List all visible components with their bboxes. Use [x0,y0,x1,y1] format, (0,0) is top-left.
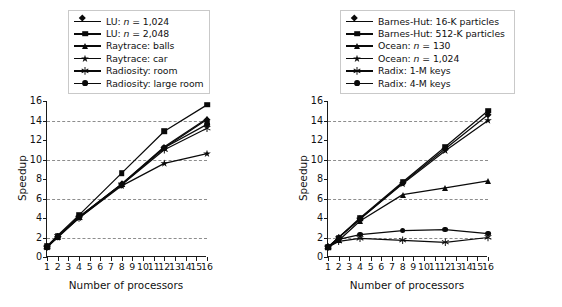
chart-panel-left: LU: n = 1,024LU: n = 2,048Raytrace: ball… [0,0,281,307]
circle-icon [336,237,342,243]
legend-marker-square-icon [346,28,373,40]
legend-item[interactable]: Radix: 4-M keys [346,77,507,89]
data-point [485,231,491,237]
data-point [76,214,82,220]
legend-item[interactable]: Radiosity: room [74,65,202,77]
y-axis-tick-label: 0 [317,252,323,262]
star-icon [81,55,89,63]
chart-legend: Barnes-Hut: 16-K particlesBarnes-Hut: 51… [340,10,515,94]
legend-item-label: Ocean: n = 130 [378,41,450,50]
circle-icon [76,214,82,220]
square-icon [82,31,88,37]
y-axis-tick-label: 14 [30,116,42,126]
y-axis-tick-label: 16 [30,96,42,106]
circle-icon [161,145,167,151]
legend-item-label: Barnes-Hut: 16-K particles [378,17,499,26]
legend-marker-glyph [81,67,89,75]
legend-marker-glyph [353,67,361,75]
legend-item-label: Raytrace: car [106,54,168,63]
circle-icon [82,81,88,87]
x-axis-title: Number of processors [350,279,464,291]
data-point [204,121,210,127]
data-point [325,244,331,250]
triangle-icon [442,185,448,191]
legend-item-label: Barnes-Hut: 512-K particles [378,29,505,38]
square-icon [119,170,125,176]
square-icon [485,108,491,114]
legend-item[interactable]: LU: n = 2,048 [74,27,202,39]
legend-item[interactable]: Radiosity: large room [74,77,202,89]
legend-item[interactable]: Barnes-Hut: 512-K particles [346,27,507,39]
chart-panel-right: Barnes-Hut: 16-K particlesBarnes-Hut: 51… [281,0,562,307]
data-point [336,237,342,243]
y-axis-tick-label: 10 [30,155,42,165]
circle-icon [357,232,363,238]
asterisk-icon [399,236,407,244]
chart-legend: LU: n = 1,024LU: n = 2,048Raytrace: ball… [68,10,210,94]
x-axis-tick-label: 3 [65,262,71,271]
data-point [119,170,125,176]
asterisk-icon [353,67,361,75]
star-icon [356,215,364,223]
legend-item[interactable]: Radix: 1-M keys [346,65,507,77]
y-axis-tick-label: 6 [36,194,42,204]
data-point [399,180,407,188]
legend-item[interactable]: Barnes-Hut: 16-K particles [346,15,507,27]
legend-item-label: LU: n = 1,024 [106,17,169,26]
circle-icon [442,227,448,233]
legend-item-label: Raytrace: balls [106,41,174,50]
legend-item[interactable]: Ocean: n = 130 [346,40,507,52]
legend-item[interactable]: Ocean: n = 1,024 [346,52,507,64]
circle-icon [204,121,210,127]
legend-item[interactable]: Raytrace: balls [74,40,202,52]
legend-marker-asterisk-icon [74,65,101,77]
legend-marker-triangle-icon [346,40,373,52]
x-axis-tick-label: 6 [378,262,384,271]
x-axis-title: Number of processors [69,279,183,291]
legend-item[interactable]: Raytrace: car [74,52,202,64]
circle-icon [119,182,125,188]
data-point [357,232,363,238]
asterisk-icon [441,238,449,246]
x-axis-tick-label: 2 [336,262,342,271]
legend-item-label: Radiosity: large room [106,79,204,88]
y-axis-title: Speedup [297,155,309,201]
x-axis-tick-label: 1 [325,262,331,271]
data-point [203,150,211,158]
y-axis-tick-label: 4 [317,213,323,223]
y-axis-tick-label: 10 [311,155,323,165]
data-point [485,108,491,114]
legend-marker-glyph [82,81,88,87]
legend-marker-glyph [354,19,359,24]
data-point [400,228,406,234]
circle-icon [55,234,61,240]
y-axis-tick-label: 16 [311,96,323,106]
series-lines [47,101,207,257]
data-point [485,178,491,184]
legend-marker-glyph [353,55,361,63]
y-axis-tick-label: 2 [317,233,323,243]
x-axis-tick-label: 5 [368,262,374,271]
legend-marker-glyph [354,43,360,49]
square-icon [162,128,168,134]
legend-item-label: Radiosity: room [106,66,177,75]
data-point [204,102,210,108]
asterisk-icon [81,67,89,75]
series-line [328,115,488,248]
star-icon [484,117,492,125]
legend-marker-circle-icon [74,77,101,89]
legend-item-label: Radix: 1-M keys [378,66,451,75]
legend-item[interactable]: LU: n = 1,024 [74,15,202,27]
data-point [484,117,492,125]
data-point [119,182,125,188]
x-axis-tick-label: 5 [87,262,93,271]
y-axis-tick-label: 12 [311,135,323,145]
x-axis-tick-label: 3 [346,262,352,271]
y-axis-tick-label: 0 [36,252,42,262]
circle-icon [325,244,331,250]
legend-item-label: Radix: 4-M keys [378,79,451,88]
star-icon [399,180,407,188]
data-point [442,185,448,191]
data-point [161,145,167,151]
triangle-icon [82,43,88,49]
